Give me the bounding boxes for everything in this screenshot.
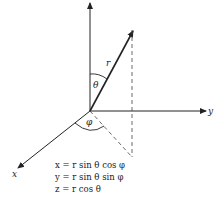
xy-plane-projection-line: [90, 111, 132, 157]
theta-label: θ: [93, 80, 99, 90]
equation-x: x = r sin θ cos φ: [55, 160, 125, 170]
phi-label: φ: [86, 117, 93, 127]
equation-z: z = r cos θ: [55, 184, 101, 194]
r-vector: [90, 31, 133, 111]
r-label: r: [106, 58, 111, 68]
theta-arc: [90, 74, 107, 79]
x-axis-label: x: [12, 169, 17, 179]
y-axis-label: y: [207, 106, 214, 116]
equation-y: y = r sin θ sin φ: [54, 172, 123, 182]
spherical-coordinates-diagram: r θ φ y x x = r sin θ cos φ y = r sin θ …: [0, 0, 221, 203]
